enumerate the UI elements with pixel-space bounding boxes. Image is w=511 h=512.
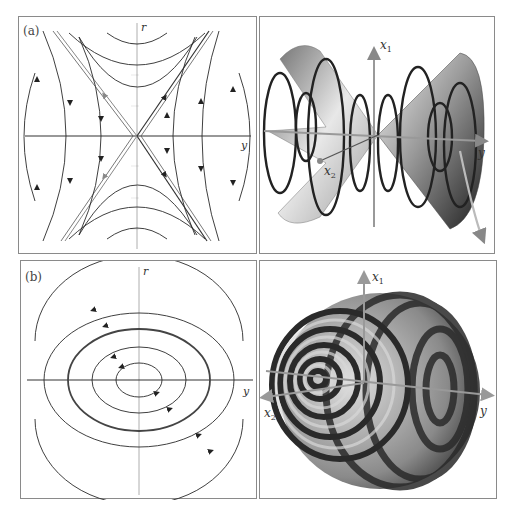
panel-label-b: (b): [25, 270, 42, 284]
y-axis-3d-label: y: [479, 404, 487, 418]
striped-sphere-surface: x1 x2 y: [260, 261, 498, 500]
y-axis-label: y: [240, 139, 248, 152]
y-axis-3d-label: y: [477, 146, 485, 160]
panel-a-3d-cone: x1 x2 y: [259, 16, 495, 254]
x1-axis-label: x1: [372, 270, 384, 286]
double-cone-surface: x1 x2 y: [260, 17, 496, 255]
r-axis-label: r: [141, 21, 147, 34]
r-axis-label: r: [143, 265, 149, 278]
saddle-phase-portrait: (a) r y: [19, 17, 258, 255]
center-phase-portrait: (b) r y: [21, 261, 258, 500]
panel-a-saddle-portrait: (a) r y: [18, 16, 257, 254]
panel-label-a: (a): [23, 24, 40, 38]
panel-b-3d-sphere: x1 x2 y: [259, 260, 497, 499]
panel-b-center-portrait: (b) r y: [20, 260, 257, 499]
y-axis-label: y: [242, 385, 250, 398]
x1-axis-label: x1: [380, 38, 392, 54]
